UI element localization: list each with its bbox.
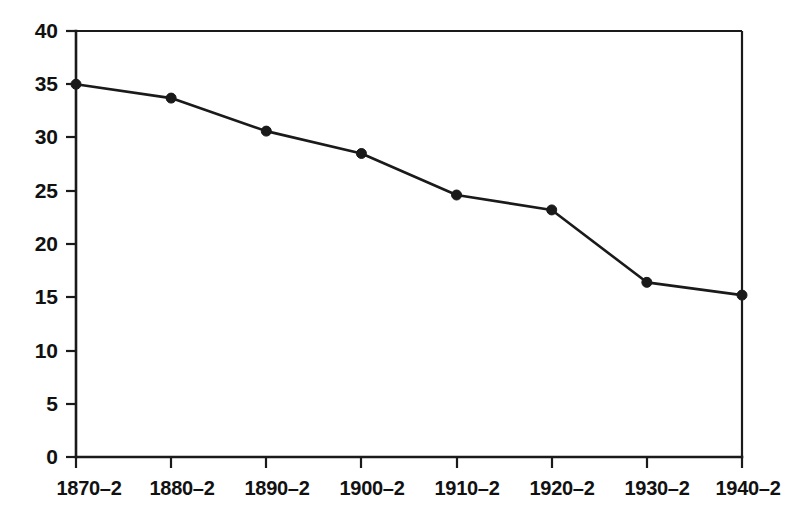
x-tick-labels: 1870–2 1880–2 1890–2 1900–2 1910–2 1920–… <box>57 477 781 499</box>
series-markers <box>71 79 747 300</box>
y-tick-marks <box>66 31 76 457</box>
y-tick-label-10: 10 <box>35 339 58 362</box>
y-tick-labels: 40 35 30 25 20 15 10 5 0 <box>35 19 59 468</box>
data-point <box>547 205 557 215</box>
data-point <box>166 93 176 103</box>
x-tick-label-3: 1900–2 <box>340 477 405 499</box>
y-tick-label-0: 0 <box>46 445 58 468</box>
y-tick-label-15: 15 <box>35 285 59 308</box>
plot-frame <box>76 31 742 457</box>
series-line <box>76 84 742 295</box>
data-point <box>71 79 81 89</box>
data-series <box>71 79 747 300</box>
data-point <box>642 277 652 287</box>
data-point <box>737 290 747 300</box>
y-tick-label-5: 5 <box>46 392 58 415</box>
line-chart: 40 35 30 25 20 15 10 5 0 1870–2 1880–2 1… <box>0 0 808 517</box>
data-point <box>356 148 366 158</box>
x-tick-label-1: 1880–2 <box>150 477 215 499</box>
x-tick-label-6: 1930–2 <box>625 477 690 499</box>
y-tick-label-30: 30 <box>35 125 58 148</box>
x-tick-label-5: 1920–2 <box>530 477 595 499</box>
y-tick-label-25: 25 <box>35 179 59 202</box>
x-tick-label-7: 1940–2 <box>716 477 781 499</box>
x-tick-label-2: 1890–2 <box>245 477 310 499</box>
x-tick-marks <box>76 457 742 468</box>
y-tick-label-40: 40 <box>35 19 58 42</box>
y-tick-label-20: 20 <box>35 232 58 255</box>
chart-canvas: 40 35 30 25 20 15 10 5 0 1870–2 1880–2 1… <box>0 0 808 517</box>
x-tick-label-4: 1910–2 <box>435 477 500 499</box>
data-point <box>261 126 271 136</box>
data-point <box>452 190 462 200</box>
x-tick-label-0: 1870–2 <box>57 477 122 499</box>
y-tick-label-35: 35 <box>35 72 59 95</box>
